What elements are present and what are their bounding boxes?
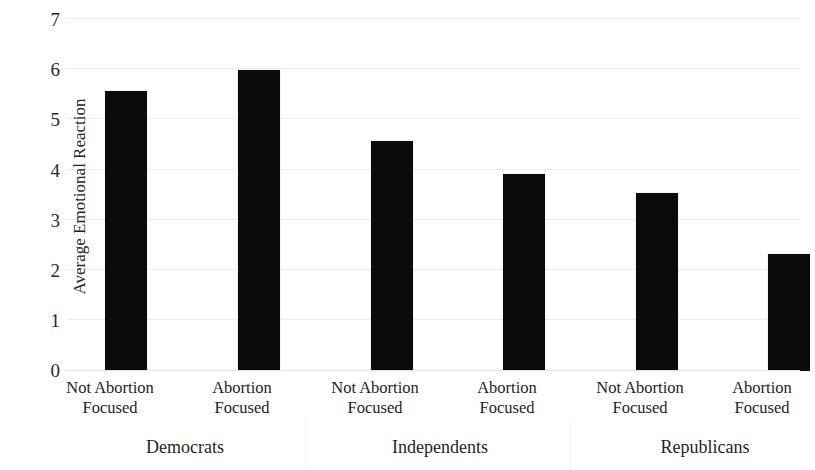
category-label-line1: Abortion (477, 378, 537, 397)
gridline (66, 118, 800, 119)
y-tick-7: 7 (14, 10, 60, 29)
category-label-line2: Focused (700, 398, 815, 418)
gridline (66, 18, 800, 19)
y-tick-6: 6 (14, 60, 60, 79)
category-label-6: Abortion Focused (700, 378, 815, 417)
x-axis-baseline (66, 370, 800, 371)
category-label-line1: Abortion (212, 378, 272, 397)
gridline (66, 269, 800, 270)
category-label-5: Not Abortion Focused (571, 378, 709, 417)
plot-area: 7 6 5 4 3 2 1 0 Average Emotional Reacti… (66, 18, 800, 371)
category-label-line1: Not Abortion (331, 378, 419, 397)
y-tick-2: 2 (14, 261, 60, 280)
gridline (66, 319, 800, 320)
category-label-1: Not Abortion Focused (41, 378, 179, 417)
group-separator (570, 420, 571, 470)
category-label-line2: Focused (41, 398, 179, 418)
chart-title (0, 0, 800, 1)
bar-independents-not-abortion-focused (371, 141, 413, 371)
bar-independents-abortion-focused (503, 174, 545, 371)
y-tick-5: 5 (14, 110, 60, 129)
bar-republicans-abortion-focused (768, 254, 810, 371)
category-label-2: Abortion Focused (180, 378, 304, 417)
y-tick-3: 3 (14, 211, 60, 230)
y-tick-4: 4 (14, 161, 60, 180)
group-separator (305, 420, 306, 470)
y-tick-1: 1 (14, 311, 60, 330)
gridline (66, 219, 800, 220)
group-label-independents: Independents (350, 437, 530, 457)
category-label-line1: Not Abortion (596, 378, 684, 397)
category-label-line2: Focused (571, 398, 709, 418)
group-label-democrats: Democrats (100, 437, 270, 457)
category-label-line2: Focused (180, 398, 304, 418)
y-axis-title: Average Emotional Reaction (71, 32, 88, 362)
bar-democrats-not-abortion-focused (105, 91, 147, 371)
bar-republicans-not-abortion-focused (636, 193, 678, 371)
category-label-line1: Not Abortion (66, 378, 154, 397)
category-label-3: Not Abortion Focused (306, 378, 444, 417)
gridline (66, 68, 800, 69)
category-label-4: Abortion Focused (445, 378, 569, 417)
gridline (66, 169, 800, 170)
category-label-line1: Abortion (732, 378, 792, 397)
category-label-line2: Focused (306, 398, 444, 418)
group-label-republicans: Republicans (615, 437, 795, 457)
category-label-line2: Focused (445, 398, 569, 418)
bar-democrats-abortion-focused (238, 70, 280, 371)
